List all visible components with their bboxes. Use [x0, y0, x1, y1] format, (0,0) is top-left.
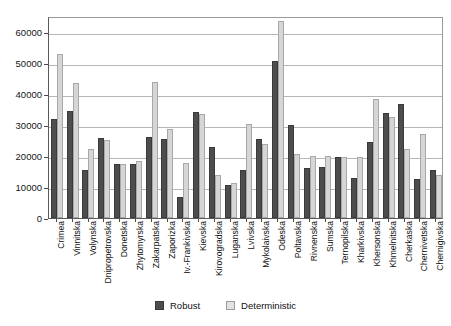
- bar-deterministic: [57, 54, 63, 218]
- x-tick: Dnipropetrovska: [96, 219, 110, 305]
- x-tick: Chernigivska: [428, 219, 442, 305]
- bar-chart: 0100002000030000400005000060000 CrimeaVi…: [0, 0, 451, 326]
- bar-group: [175, 18, 191, 218]
- bar-deterministic: [246, 124, 252, 218]
- bar-group: [349, 18, 365, 218]
- robust-swatch-icon: [155, 301, 164, 310]
- legend-label-robust: Robust: [170, 300, 200, 311]
- bar-group: [381, 18, 397, 218]
- deterministic-swatch-icon: [226, 301, 235, 310]
- bar-deterministic: [373, 99, 379, 218]
- bar-deterministic: [167, 129, 173, 218]
- bar-deterministic: [231, 183, 237, 218]
- x-tick: Rivnenska: [302, 219, 316, 305]
- x-tick: Khersonska: [365, 219, 379, 305]
- bar-deterministic: [183, 163, 189, 218]
- x-tick: Lvivska: [239, 219, 253, 305]
- bar-group: [270, 18, 286, 218]
- bar-deterministic: [404, 149, 410, 218]
- y-tick-label: 20000: [0, 152, 42, 162]
- bar-deterministic: [310, 156, 316, 218]
- chart-legend: Robust Deterministic: [0, 300, 451, 311]
- bar-group: [223, 18, 239, 218]
- x-tick: Khmelnitska: [381, 219, 395, 305]
- bar-group: [160, 18, 176, 218]
- bar-group: [49, 18, 65, 218]
- bar-group: [96, 18, 112, 218]
- bar-group: [191, 18, 207, 218]
- bar-deterministic: [420, 134, 426, 218]
- bar-group: [286, 18, 302, 218]
- bar-group: [65, 18, 81, 218]
- x-tick: Mykolaivska: [254, 219, 268, 305]
- bar-group: [302, 18, 318, 218]
- y-tick-label: 30000: [0, 121, 42, 131]
- bar-deterministic: [341, 157, 347, 218]
- x-tick: Poltavska: [286, 219, 300, 305]
- x-tick: Kievska: [191, 219, 205, 305]
- x-tick: Zakarpatska: [144, 219, 158, 305]
- bar-deterministic: [152, 82, 158, 218]
- y-tick-label: 50000: [0, 59, 42, 69]
- x-tick: Sumska: [318, 219, 332, 305]
- x-tick: Iv.-Frankivska: [175, 219, 189, 305]
- x-tick: Odeska: [270, 219, 284, 305]
- bar-deterministic: [262, 144, 268, 218]
- x-tick: Donetska: [112, 219, 126, 305]
- legend-item-deterministic: Deterministic: [226, 300, 296, 311]
- bar-group: [207, 18, 223, 218]
- bar-group: [412, 18, 428, 218]
- bar-deterministic: [120, 164, 126, 218]
- bar-group: [254, 18, 270, 218]
- x-tick: Ternopilska: [333, 219, 347, 305]
- bar-deterministic: [436, 175, 442, 218]
- x-tick: Cherkaska: [397, 219, 411, 305]
- y-tick-label: 40000: [0, 90, 42, 100]
- bar-deterministic: [294, 154, 300, 218]
- y-tick-label: 0: [0, 214, 42, 224]
- legend-label-deterministic: Deterministic: [241, 300, 296, 311]
- bar-deterministic: [278, 21, 284, 218]
- x-tick: Volynska: [81, 219, 95, 305]
- bar-group: [397, 18, 413, 218]
- x-tick: Kharkivska: [349, 219, 363, 305]
- bar-group: [239, 18, 255, 218]
- bar-deterministic: [73, 83, 79, 218]
- x-tick-label: Chernigivska: [435, 221, 446, 271]
- bar-group: [318, 18, 334, 218]
- bar-group: [112, 18, 128, 218]
- bar-group: [144, 18, 160, 218]
- y-tick-label: 10000: [0, 183, 42, 193]
- plot-area: [48, 17, 443, 219]
- x-tick: Chernivetska: [412, 219, 426, 305]
- bar-deterministic: [88, 149, 94, 218]
- bar-group: [81, 18, 97, 218]
- x-tick: Zaporizka: [160, 219, 174, 305]
- x-tick: Zhytomyrska: [128, 219, 142, 305]
- bar-deterministic: [357, 157, 363, 218]
- x-tick: Crimea: [49, 219, 63, 305]
- legend-item-robust: Robust: [155, 300, 200, 311]
- bar-deterministic: [136, 161, 142, 218]
- bar-group: [428, 18, 444, 218]
- x-tick: Luganska: [223, 219, 237, 305]
- bar-deterministic: [215, 175, 221, 219]
- bar-deterministic: [104, 140, 110, 218]
- x-tick: Kirovogradska: [207, 219, 221, 305]
- x-axis-labels: CrimeaVinnitskaVolynskaDnipropetrovskaDo…: [48, 219, 443, 307]
- bar-group: [128, 18, 144, 218]
- bar-group: [333, 18, 349, 218]
- bar-deterministic: [325, 156, 331, 218]
- bar-deterministic: [199, 114, 205, 218]
- y-tick-label: 60000: [0, 28, 42, 38]
- bar-group: [365, 18, 381, 218]
- x-tick: Vinnitska: [65, 219, 79, 305]
- bar-deterministic: [389, 117, 395, 218]
